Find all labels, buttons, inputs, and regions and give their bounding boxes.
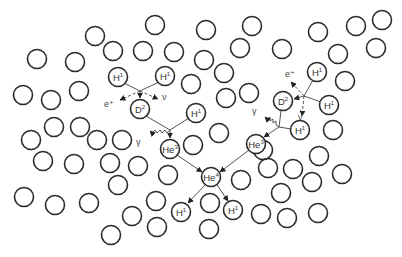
particle-circle <box>309 23 328 42</box>
nucleus-h1-out-left: H1 <box>172 203 191 222</box>
particle-circle <box>195 51 214 70</box>
particle-circle <box>259 159 278 178</box>
fusion-diagram: H1H1D2H1He3H1H1D2H1He3He4H1H1 e⁺νγe⁺νγ <box>0 0 402 257</box>
particle-circle <box>22 131 41 150</box>
reaction-arrow <box>177 155 202 172</box>
particle-circle <box>42 91 61 110</box>
particle-circle <box>184 136 203 155</box>
neutrino-arrow <box>140 91 158 99</box>
reaction-line <box>279 127 291 129</box>
particle-circle <box>329 45 348 64</box>
particle-circle <box>272 184 291 203</box>
reaction-line <box>279 111 281 127</box>
nucleus-h1-c: H1 <box>187 104 206 123</box>
nucleus-d2-right: D2 <box>274 92 293 111</box>
particle-circle <box>243 17 262 36</box>
gamma-wave <box>265 117 279 127</box>
nucleus-d2-left: D2 <box>131 100 150 119</box>
label-positron-right: e⁺ <box>285 69 295 79</box>
particle-circle <box>310 147 329 166</box>
particle-circle <box>104 42 123 61</box>
particle-circle <box>65 155 84 174</box>
positron-arrow <box>120 91 140 100</box>
particle-circle <box>146 16 165 35</box>
nucleus-he4: He4 <box>202 168 221 187</box>
particle-circle <box>182 75 201 94</box>
nucleus-h1-out-right: H1 <box>224 201 243 220</box>
particle-circle <box>324 121 343 140</box>
nucleus-he3-right: He3 <box>247 135 266 154</box>
nucleus-h1-e: H1 <box>320 96 339 115</box>
label-positron-left: e⁺ <box>104 99 114 109</box>
nucleus-h1-d: H1 <box>308 63 327 82</box>
particle-circle <box>217 89 236 108</box>
particle-circle <box>165 43 184 62</box>
particle-circle <box>14 86 33 105</box>
label-neutrino-right: ν <box>298 112 303 122</box>
reaction-line <box>140 82 159 91</box>
reaction-line <box>124 83 140 91</box>
particle-circle <box>102 226 121 245</box>
particle-circle <box>15 188 34 207</box>
particle-circle <box>252 205 271 224</box>
particle-circle <box>86 27 105 46</box>
nucleus-he3-left: He3 <box>161 140 180 159</box>
label-gamma-right: γ <box>252 106 257 116</box>
particle-circle <box>134 42 153 61</box>
particle-circle <box>66 53 85 72</box>
particle-circle <box>347 17 366 36</box>
particle-circle <box>278 209 297 228</box>
nucleus-h1-f: H1 <box>291 121 310 140</box>
particle-circle <box>284 160 303 179</box>
reaction-arrow <box>264 127 279 137</box>
reaction-line <box>170 118 189 130</box>
particle-circle <box>109 176 128 195</box>
particle-circle <box>45 118 64 137</box>
reaction-line <box>146 116 170 130</box>
particle-circle <box>28 50 47 69</box>
particle-circle <box>88 131 107 150</box>
reaction-arrow <box>188 185 205 203</box>
particle-circle <box>80 194 99 213</box>
particle-circle <box>336 72 355 91</box>
particle-circle <box>373 11 392 30</box>
particle-circle <box>273 40 292 59</box>
particle-circle <box>123 207 142 226</box>
nucleus-h1-b: H1 <box>156 67 175 86</box>
particle-circle <box>113 131 132 150</box>
particle-circle <box>159 166 178 185</box>
nucleus-h1-a: H1 <box>109 68 128 87</box>
particle-circle <box>101 154 120 173</box>
particle-circle <box>70 82 89 101</box>
particle-circle <box>200 220 219 239</box>
particle-circle <box>333 165 352 184</box>
particle-circle <box>210 124 229 143</box>
particle-circle <box>34 152 53 171</box>
positron-arrow <box>291 82 304 96</box>
particle-circle <box>147 192 166 211</box>
particle-circle <box>148 218 167 237</box>
gamma-wave <box>150 130 170 133</box>
particle-circle <box>231 39 250 58</box>
label-gamma-left: γ <box>136 137 141 147</box>
reaction-arrow <box>220 150 249 172</box>
particle-circle <box>46 196 65 215</box>
particle-circle <box>367 39 386 58</box>
particle-circle <box>240 84 259 103</box>
particle-circle <box>197 21 216 40</box>
label-neutrino-left: ν <box>162 92 167 102</box>
particle-circle <box>129 157 148 176</box>
particle-circle <box>309 204 328 223</box>
reaction-line <box>304 96 321 102</box>
particle-circle <box>232 171 251 190</box>
particle-circle <box>71 118 90 137</box>
particle-circle <box>303 173 322 192</box>
particle-circle <box>201 194 220 213</box>
background-particles <box>14 11 392 245</box>
reaction-line <box>304 80 313 96</box>
particle-circle <box>215 64 234 83</box>
reaction-arrow <box>294 96 304 99</box>
